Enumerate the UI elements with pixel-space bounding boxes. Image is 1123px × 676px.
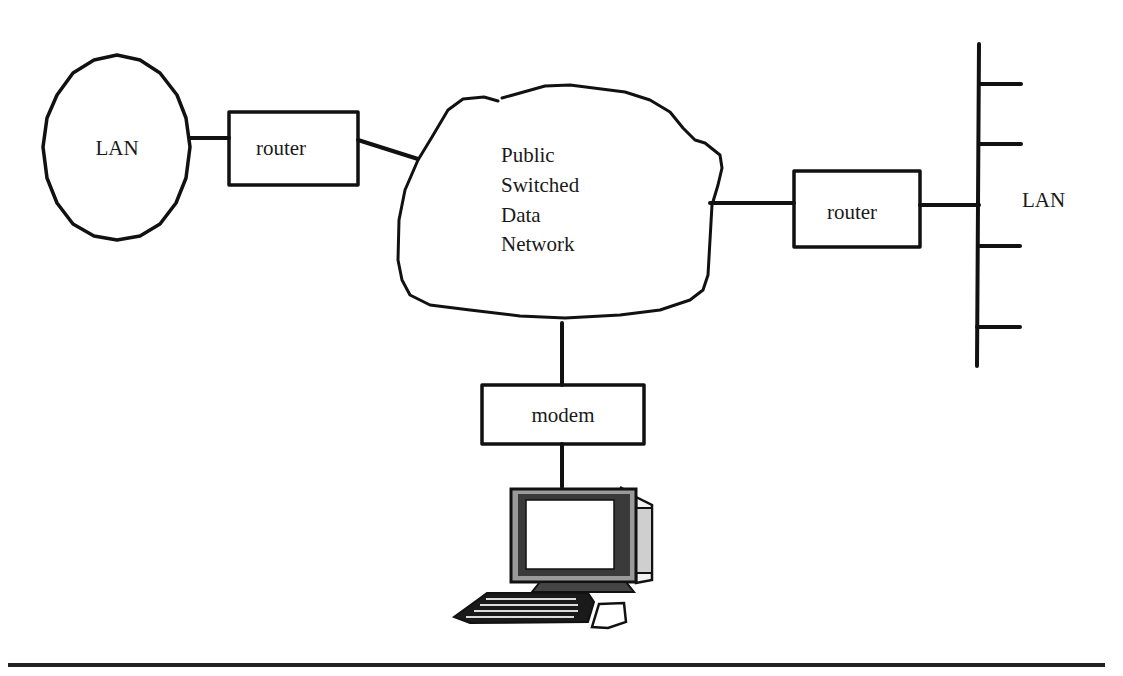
right-lan-bus: LAN xyxy=(977,44,1065,366)
left-router-label: router xyxy=(256,136,306,160)
cloud-label-line-2: Switched xyxy=(501,173,580,197)
left-lan-label: LAN xyxy=(95,136,138,160)
cloud-label-line-1: Public xyxy=(501,143,555,167)
keyboard xyxy=(454,593,594,623)
monitor-stand xyxy=(532,582,634,592)
public-network-cloud: Public Switched Data Network xyxy=(398,85,722,318)
right-router-node: router xyxy=(794,171,920,247)
monitor-screen xyxy=(526,500,614,569)
right-lan-label: LAN xyxy=(1022,188,1065,212)
network-diagram: LAN router Public Switched Data Network … xyxy=(0,0,1123,676)
bus-backbone xyxy=(977,44,979,366)
cloud-label-line-3: Data xyxy=(501,203,541,227)
mouse xyxy=(592,603,626,628)
link-left-router-cloud xyxy=(358,140,418,159)
right-router-label: router xyxy=(827,200,877,224)
cloud-label-line-4: Network xyxy=(501,232,575,256)
modem-node: modem xyxy=(482,385,644,444)
left-router-node: router xyxy=(229,112,358,185)
desktop-computer-icon xyxy=(454,487,652,628)
left-lan-node: LAN xyxy=(43,55,190,240)
monitor-side-panel xyxy=(636,508,652,573)
modem-label: modem xyxy=(532,403,595,427)
cloud-outline xyxy=(398,85,722,318)
